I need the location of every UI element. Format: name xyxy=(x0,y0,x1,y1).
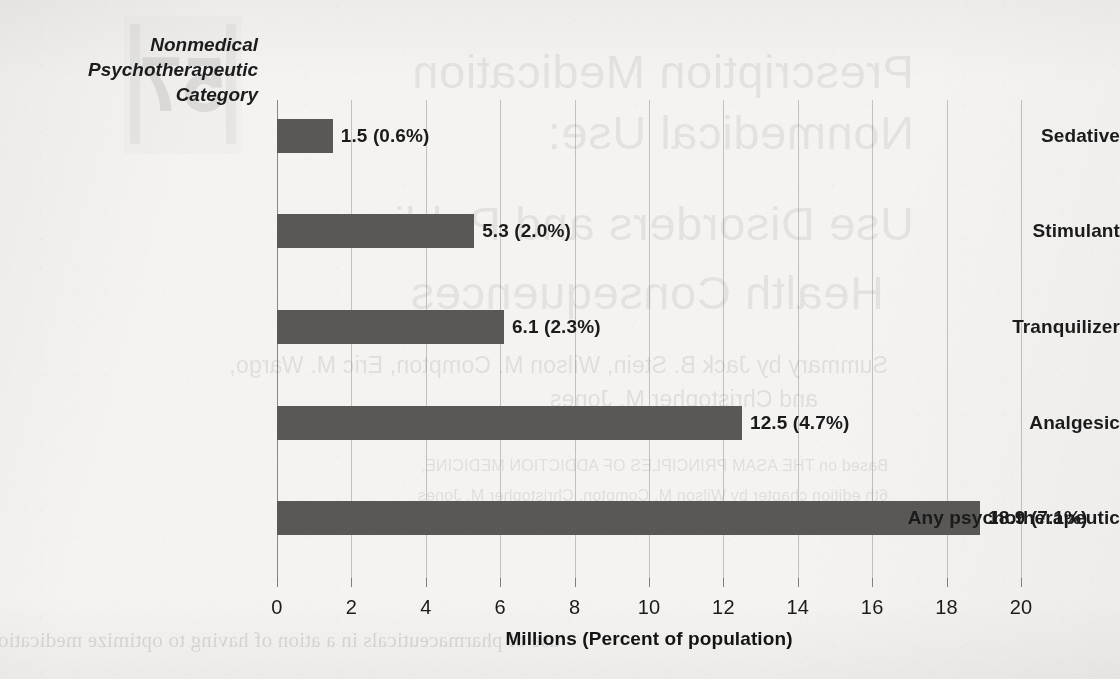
chart-page: 57 Prescription Medication Nonmedical Us… xyxy=(0,0,1120,679)
category-label-any-psychotherapeutic: Any psychotherapeutic xyxy=(850,507,1120,529)
y-axis-title: Nonmedical Psychotherapeutic Category xyxy=(0,32,258,107)
x-tick-label-12: 12 xyxy=(712,596,735,619)
x-axis-title: Millions (Percent of population) xyxy=(277,628,1021,650)
tick-mark-16 xyxy=(872,578,873,587)
category-label-tranquilizer: Tranquilizer xyxy=(850,316,1120,338)
bar xyxy=(277,406,742,440)
y-axis-title-line-2: Psychotherapeutic xyxy=(0,57,258,82)
x-tick-label-8: 8 xyxy=(569,596,580,619)
tick-mark-2 xyxy=(351,578,352,587)
bar-chart: Nonmedical Psychotherapeutic Category 1.… xyxy=(0,0,1120,679)
tick-mark-4 xyxy=(426,578,427,587)
category-label-stimulant: Stimulant xyxy=(850,220,1120,242)
x-tick-label-20: 20 xyxy=(1010,596,1033,619)
x-tick-label-0: 0 xyxy=(271,596,282,619)
tick-mark-18 xyxy=(947,578,948,587)
bar xyxy=(277,310,504,344)
x-tick-label-4: 4 xyxy=(420,596,431,619)
bar-value-label: 12.5 (4.7%) xyxy=(750,412,849,434)
x-tick-label-14: 14 xyxy=(786,596,809,619)
bar xyxy=(277,119,333,153)
x-tick-label-16: 16 xyxy=(861,596,884,619)
bar-value-label: 1.5 (0.6%) xyxy=(341,125,430,147)
bar-value-label: 6.1 (2.3%) xyxy=(512,316,601,338)
tick-mark-8 xyxy=(575,578,576,587)
category-label-analgesic: Analgesic xyxy=(850,412,1120,434)
tick-mark-0 xyxy=(277,578,278,587)
tick-mark-14 xyxy=(798,578,799,587)
bar-value-label: 5.3 (2.0%) xyxy=(482,220,571,242)
bar xyxy=(277,214,474,248)
y-axis-title-line-1: Nonmedical xyxy=(0,32,258,57)
x-tick-label-2: 2 xyxy=(346,596,357,619)
x-axis-tick-labels: 02468101214161820 xyxy=(277,596,1021,624)
y-axis-category-labels xyxy=(0,100,258,578)
category-label-sedative: Sedative xyxy=(850,125,1120,147)
tick-mark-6 xyxy=(500,578,501,587)
x-tick-label-10: 10 xyxy=(638,596,661,619)
x-tick-label-18: 18 xyxy=(935,596,958,619)
x-tick-label-6: 6 xyxy=(495,596,506,619)
tick-mark-10 xyxy=(649,578,650,587)
tick-mark-12 xyxy=(723,578,724,587)
tick-mark-20 xyxy=(1021,578,1022,587)
